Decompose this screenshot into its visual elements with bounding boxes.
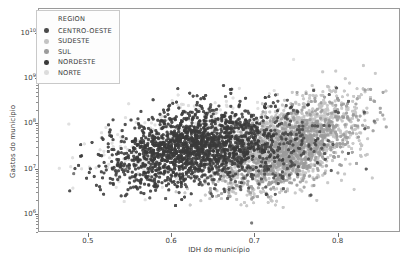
y-axis-minor-tick (36, 182, 38, 183)
y-axis-minor-tick (36, 85, 38, 86)
y-axis-label: Gastos do município (9, 0, 23, 178)
y-axis-minor-tick (36, 92, 38, 93)
legend-marker-icon (42, 70, 51, 75)
legend-item-centro-oeste[interactable]: CENTRO-OESTE (42, 26, 112, 37)
legend-entries: CENTRO-OESTESUDESTESULNORDESTENORTE (42, 26, 112, 79)
y-axis-minor-tick (36, 192, 38, 193)
legend-item-label: SUDESTE (58, 37, 90, 45)
y-axis-minor-tick (36, 141, 38, 142)
legend-item-label: SUL (58, 48, 71, 56)
y-axis-minor-tick (36, 130, 38, 131)
legend: REGION CENTRO-OESTESUDESTESULNORDESTENOR… (36, 10, 120, 84)
legend-marker-icon (42, 60, 51, 65)
x-axis-tick-mark (254, 233, 255, 237)
y-axis-minor-tick (36, 171, 38, 172)
y-axis-minor-tick (36, 221, 38, 222)
y-axis-minor-tick (36, 228, 38, 229)
legend-item-sudeste[interactable]: SUDESTE (42, 36, 112, 47)
y-axis-minor-tick (36, 102, 38, 103)
legend-item-label: CENTRO-OESTE (58, 27, 112, 35)
x-axis-ticks: 0.50.60.70.8 (38, 233, 400, 245)
y-axis-minor-tick (36, 110, 38, 111)
x-axis-tick-label: 0.7 (249, 237, 260, 245)
y-axis-minor-tick (36, 96, 38, 97)
y-axis-minor-tick (36, 179, 38, 180)
y-axis-minor-tick (36, 224, 38, 225)
y-axis-major-tick (35, 214, 39, 215)
y-axis-minor-tick (36, 147, 38, 148)
y-axis-minor-tick (36, 137, 38, 138)
y-axis-minor-tick (36, 133, 38, 134)
legend-item-sul[interactable]: SUL (42, 47, 112, 58)
y-axis-minor-tick (36, 216, 38, 217)
legend-marker-icon (42, 39, 51, 44)
y-axis-minor-tick (36, 176, 38, 177)
y-axis-minor-tick (36, 125, 38, 126)
legend-marker-icon (42, 49, 51, 54)
legend-marker-icon (42, 28, 51, 33)
legend-title: REGION (58, 15, 112, 23)
y-axis-minor-tick (36, 128, 38, 129)
x-axis-tick-label: 0.6 (166, 237, 177, 245)
y-axis-minor-tick (36, 218, 38, 219)
legend-item-label: NORTE (58, 69, 81, 77)
legend-item-norte[interactable]: NORTE (42, 68, 112, 79)
y-axis-minor-tick (36, 200, 38, 201)
scatter-plot-figure: 1061071081091010 Gastos do município 0.5… (0, 0, 414, 263)
x-axis-tick-mark (338, 233, 339, 237)
y-axis-minor-tick (36, 173, 38, 174)
y-axis-minor-tick (36, 187, 38, 188)
x-axis-label: IDH do município (38, 246, 400, 254)
y-axis-major-tick (35, 123, 39, 124)
y-axis-minor-tick (36, 155, 38, 156)
y-axis-minor-tick (36, 88, 38, 89)
x-axis-tick-label: 0.8 (332, 237, 343, 245)
x-axis-tick-mark (171, 233, 172, 237)
x-axis-tick-label: 0.5 (82, 237, 93, 245)
x-axis-tick-mark (88, 233, 89, 237)
legend-item-nordeste[interactable]: NORDESTE (42, 57, 112, 68)
legend-item-label: NORDESTE (58, 58, 96, 66)
y-axis-major-tick (35, 169, 39, 170)
